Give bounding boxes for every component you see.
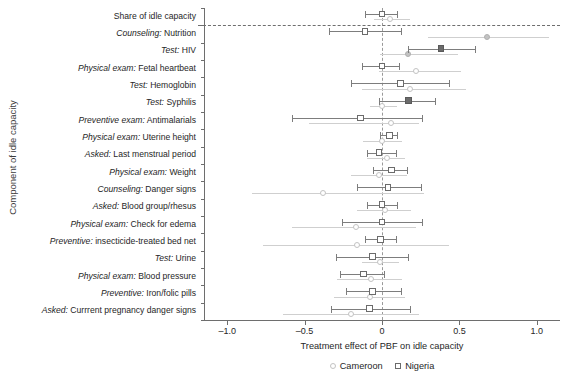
marker-nigeria [360,271,367,278]
y-axis-tick [201,95,204,96]
confidence-interval-cap [379,98,380,105]
confidence-interval-cap [401,288,402,295]
legend-item-cameroon: Cameroon [330,361,383,371]
y-axis-tick [201,43,204,44]
marker-cameroon [384,155,390,161]
marker-nigeria [379,11,386,18]
y-axis-tick [201,181,204,182]
y-axis-category-label: Physical exam: Check for edema [0,220,200,229]
confidence-interval-cap [421,184,422,191]
confidence-interval-cap [365,236,366,243]
legend-label-nigeria: Nigeria [405,361,434,371]
confidence-interval-cap [342,219,343,226]
marker-nigeria [386,132,393,139]
y-axis-tick [201,129,204,130]
confidence-interval-cap [449,80,450,87]
y-axis-tick [201,199,204,200]
confidence-interval-cap [422,115,423,122]
confidence-interval-cap [399,63,400,70]
marker-nigeria [369,253,376,260]
confidence-interval-cap [357,184,358,191]
confidence-interval-cap [401,28,402,35]
marker-cameroon [354,242,360,248]
marker-nigeria [377,236,384,243]
legend-item-nigeria: Nigeria [395,361,435,371]
y-axis-category-label: Test: Hemoglobin [0,81,200,90]
confidence-interval-bar [362,89,466,90]
marker-nigeria [397,80,404,87]
confidence-interval-cap [292,115,293,122]
marker-nigeria [366,305,373,312]
confidence-interval-cap [396,236,397,243]
confidence-interval-cap [397,202,398,209]
confidence-interval-cap [367,202,368,209]
confidence-interval-cap [408,46,409,53]
marker-nigeria [379,219,386,226]
marker-cameroon [413,68,419,74]
y-axis-category-label: Preventive: Iron/folic pills [0,289,200,298]
y-axis-category-label: Test: Syphilis [0,98,200,107]
confidence-interval-cap [336,254,337,261]
marker-cameroon [376,172,382,178]
marker-cameroon [379,103,385,109]
confidence-interval-cap [410,306,411,313]
y-axis-tick [201,112,204,113]
confidence-interval-bar [379,71,461,72]
x-axis-tick [537,321,538,325]
confidence-interval-cap [397,11,398,18]
y-axis-category-label: Physical exam: Weight [0,168,200,177]
y-axis-line [204,8,205,320]
marker-nigeria [379,63,386,70]
y-axis-tick [201,233,204,234]
confidence-interval-cap [367,150,368,157]
y-axis-tick [201,320,204,321]
header-separator-line [198,25,560,26]
marker-nigeria [438,45,445,52]
confidence-interval-cap [340,271,341,278]
confidence-interval-cap [396,150,397,157]
marker-cameroon [407,86,413,92]
y-axis-category-label: Physical exam: Fetal heartbeat [0,64,200,73]
confidence-interval-cap [362,63,363,70]
confidence-interval-cap [331,306,332,313]
circle-icon [330,363,336,369]
chart-legend: Cameroon Nigeria [204,361,560,371]
y-axis-tick [201,8,204,9]
x-axis-tick [227,321,228,325]
y-axis-category-label: Asked: Last menstrual period [0,150,200,159]
confidence-interval-cap [408,254,409,261]
x-axis-tick-label: 1.0 [517,326,557,336]
y-axis-category-label: Test: HIV [0,46,200,55]
marker-cameroon [387,16,393,22]
confidence-interval-cap [380,132,381,139]
marker-nigeria [369,288,376,295]
confidence-interval-cap [346,288,347,295]
marker-nigeria [376,149,383,156]
forest-plot-chart: Component of idle capacity Share of idle… [0,0,584,385]
square-icon [395,363,402,370]
marker-cameroon [353,224,359,230]
y-axis-tick [201,268,204,269]
y-axis-category-label: Preventive: insecticide-treated bed net [0,237,200,246]
legend-label-cameroon: Cameroon [340,361,383,371]
x-axis-tick-label: 0.5 [439,326,479,336]
confidence-interval-cap [351,80,352,87]
marker-nigeria [385,184,392,191]
confidence-interval-cap [365,11,366,18]
marker-cameroon [368,276,374,282]
x-axis-title: Treatment effect of PBF on idle capacity [204,341,560,351]
marker-cameroon [348,311,354,317]
x-axis-tick-label: –0.5 [285,326,325,336]
marker-nigeria [405,97,412,104]
y-axis-tick [201,25,204,26]
confidence-interval-cap [407,167,408,174]
marker-cameroon [484,34,490,40]
confidence-interval-bar [252,193,424,194]
marker-cameroon [320,190,326,196]
marker-nigeria [388,167,395,174]
y-axis-tick [201,303,204,304]
y-axis-tick [201,285,204,286]
y-axis-tick [201,60,204,61]
y-axis-category-label: Counseling: Nutrition [0,29,200,38]
y-axis-category-label: Test: Urine [0,254,200,263]
